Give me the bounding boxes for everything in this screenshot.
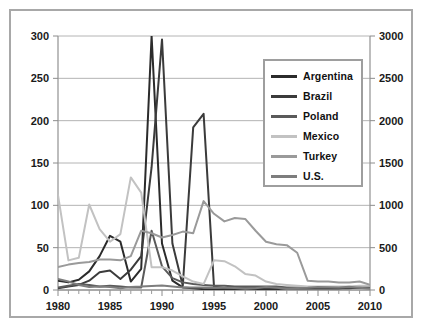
x-tick-label: 1985: [98, 300, 122, 312]
legend-swatch-us: [271, 175, 297, 178]
y-tick-label-left: 50: [37, 242, 49, 254]
x-tick-label: 1990: [150, 300, 174, 312]
y-tick-label-right: 3000: [379, 30, 403, 42]
legend-swatch-argentina: [271, 75, 297, 78]
legend-label-turkey: Turkey: [303, 150, 337, 162]
y-tick-label-right: 0: [379, 284, 385, 296]
legend-item-argentina: Argentina: [265, 66, 361, 86]
y-tick-label-right: 1000: [379, 199, 403, 211]
legend-label-us: U.S.: [303, 170, 324, 182]
legend-swatch-turkey: [271, 155, 297, 158]
legend-item-mexico: Mexico: [265, 126, 361, 146]
legend-item-turkey: Turkey: [265, 146, 361, 166]
x-tick-label: 2000: [254, 300, 278, 312]
y-tick-label-left: 200: [31, 115, 49, 127]
legend-item-poland: Poland: [265, 106, 361, 126]
x-tick-label: 2005: [306, 300, 330, 312]
legend-item-brazil: Brazil: [265, 86, 361, 106]
chart-legend: Argentina Brazil Poland Mexico Turkey U.…: [263, 59, 363, 187]
x-tick-label: 1995: [202, 300, 226, 312]
legend-label-argentina: Argentina: [303, 70, 353, 82]
y-tick-label-left: 150: [31, 157, 49, 169]
y-tick-label-right: 2500: [379, 72, 403, 84]
y-tick-label-left: 0: [43, 284, 49, 296]
legend-swatch-brazil: [271, 95, 297, 98]
x-tick-label: 1980: [46, 300, 70, 312]
y-tick-label-left: 250: [31, 72, 49, 84]
y-tick-label-right: 1500: [379, 157, 403, 169]
y-tick-label-left: 100: [31, 199, 49, 211]
legend-label-mexico: Mexico: [303, 130, 339, 142]
legend-label-poland: Poland: [303, 110, 339, 122]
y-tick-label-right: 500: [379, 242, 397, 254]
chart-figure: 0501001502002503000500100015002000250030…: [0, 0, 422, 336]
y-tick-label-right: 2000: [379, 115, 403, 127]
x-tick-label: 2010: [358, 300, 382, 312]
legend-label-brazil: Brazil: [303, 90, 332, 102]
legend-swatch-mexico: [271, 135, 297, 138]
y-tick-label-left: 300: [31, 30, 49, 42]
legend-swatch-poland: [271, 115, 297, 118]
legend-item-us: U.S.: [265, 166, 361, 186]
